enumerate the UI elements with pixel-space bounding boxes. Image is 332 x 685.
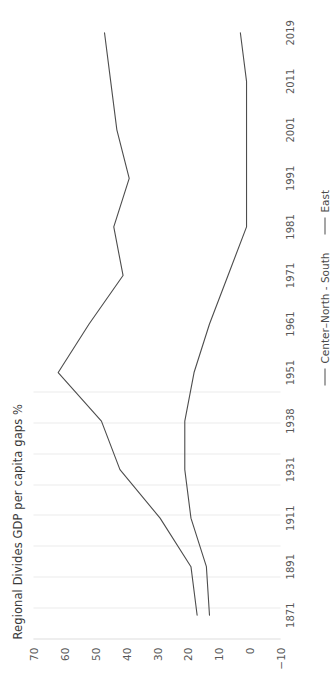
legend-item[interactable]: East <box>318 189 330 234</box>
category-tick-label: 2019 <box>284 20 295 45</box>
category-tick-label: 1931 <box>284 456 295 481</box>
value-tick-label: 50 <box>89 647 101 660</box>
category-tick-label: 1951 <box>284 359 295 384</box>
value-tick-label: 40 <box>120 647 132 660</box>
value-tick-label: 0 <box>243 647 255 654</box>
category-tick-label: 1971 <box>284 262 295 287</box>
value-tick-label: 30 <box>151 647 163 660</box>
series-line <box>184 32 246 614</box>
legend-item[interactable]: Center–North - South <box>318 252 330 385</box>
legend-label: Center–North - South <box>318 252 330 363</box>
chart-legend: Center–North - SouthEast <box>318 189 330 385</box>
category-axis-ticks: 1871189119111931193819511961197119811991… <box>284 8 302 639</box>
chart-canvas: Regional Divides GDP per capita gaps % 7… <box>0 0 332 685</box>
value-tick-label: 70 <box>27 647 39 660</box>
chart-figure: Regional Divides GDP per capita gaps % 7… <box>0 0 332 685</box>
category-tick-label: 2011 <box>284 68 295 93</box>
legend-line-icon <box>324 368 325 385</box>
category-tick-label: 2001 <box>284 117 295 142</box>
category-tick-label: 1871 <box>284 602 295 627</box>
category-tick-label: 1891 <box>284 553 295 578</box>
chart-title: Regional Divides GDP per capita gaps % <box>10 403 24 639</box>
value-tick-label: 20 <box>181 647 193 660</box>
plot-area: Regional Divides GDP per capita gaps % 7… <box>0 0 332 685</box>
value-tick-label: 60 <box>58 647 70 660</box>
legend-line-icon <box>324 217 325 234</box>
category-tick-label: 1991 <box>284 165 295 190</box>
value-tick-label: −10 <box>274 647 286 669</box>
category-tick-label: 1938 <box>284 408 295 433</box>
category-tick-label: 1981 <box>284 214 295 239</box>
series-line <box>58 32 197 614</box>
value-axis-ticks: 706050403020100−10 <box>33 641 280 685</box>
series-lines <box>33 8 280 639</box>
value-tick-label: 10 <box>212 647 224 660</box>
category-tick-label: 1911 <box>284 505 295 530</box>
legend-label: East <box>318 189 330 212</box>
category-tick-label: 1961 <box>284 311 295 336</box>
